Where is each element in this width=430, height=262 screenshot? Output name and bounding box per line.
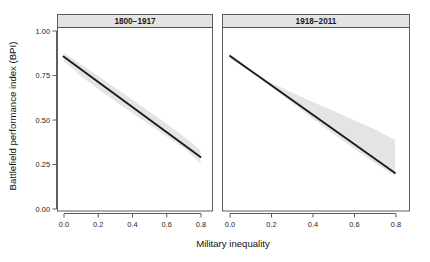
x-tick-label: 0.6 — [162, 220, 172, 229]
x-tick-label: 0.0 — [225, 220, 235, 229]
x-tick-label: 0.2 — [93, 220, 103, 229]
x-tick-label: 0.8 — [391, 220, 401, 229]
x-tick-label: 0.8 — [196, 220, 206, 229]
x-tick-label: 0.4 — [127, 220, 137, 229]
chart-figure: Battlefield performance index (BPI) 1.00… — [0, 0, 430, 262]
x-axis-left — [64, 214, 201, 218]
x-axis-tick-labels-right: 0.0 0.2 0.4 0.6 0.8 — [225, 220, 401, 229]
y-tick-label: 0.00 — [36, 205, 50, 214]
y-axis — [53, 31, 57, 209]
y-tick-label: 0.50 — [36, 116, 50, 125]
panel-1800-1917: 1800−1917 0.0 — [58, 15, 213, 230]
panel-strip-label: 1800−1917 — [114, 17, 156, 26]
x-axis-right — [230, 214, 396, 218]
y-tick-label: 0.25 — [36, 160, 50, 169]
y-tick-label: 0.75 — [36, 71, 50, 80]
panel-1918-2011: 1918−2011 0.0 — [223, 15, 410, 230]
panel-strip-label: 1918−2011 — [296, 17, 337, 26]
x-tick-label: 0.2 — [266, 220, 276, 229]
y-axis-title: Battlefield performance index (BPI) — [7, 42, 18, 191]
chart-canvas: Battlefield performance index (BPI) 1.00… — [0, 0, 430, 262]
x-tick-label: 0.4 — [308, 220, 318, 229]
y-axis-tick-labels: 1.00 0.75 0.50 0.25 0.00 — [36, 27, 50, 214]
y-tick-label: 1.00 — [36, 27, 50, 36]
panel-frame-left — [58, 28, 213, 212]
x-axis-title: Military inequality — [196, 238, 270, 249]
x-tick-label: 0.6 — [349, 220, 359, 229]
x-tick-label: 0.0 — [59, 220, 69, 229]
x-axis-tick-labels-left: 0.0 0.2 0.4 0.6 0.8 — [59, 220, 206, 229]
